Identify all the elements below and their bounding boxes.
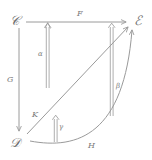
two-cell-label-alpha: α: [38, 51, 43, 58]
arrow-label-G: G: [7, 76, 13, 84]
two-cell-beta: [109, 23, 115, 116]
arrow-label-H: H: [88, 142, 95, 150]
two-cell-label-beta: β: [116, 83, 120, 90]
diagram-canvas: [0, 0, 152, 160]
object-label-D: 𝒟: [10, 136, 20, 149]
two-cell-label-gamma: γ: [59, 124, 63, 131]
two-cell-alpha: [45, 23, 51, 88]
arrow-label-F: F: [77, 10, 83, 18]
commutative-diagram: 𝒞 ℰ 𝒟 F G K H α β γ: [0, 0, 152, 160]
arrow-label-K: K: [32, 111, 38, 119]
object-label-E: ℰ: [134, 14, 142, 27]
two-cell-gamma: [53, 115, 59, 142]
object-label-C: 𝒞: [10, 14, 19, 27]
